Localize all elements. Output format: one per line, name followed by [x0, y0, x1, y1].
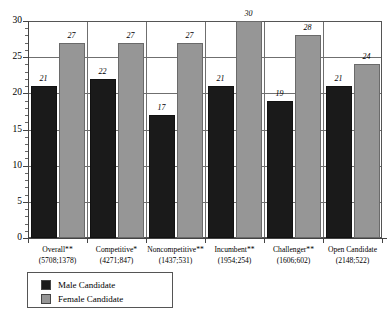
- y-tick-minor-7: [25, 187, 28, 188]
- group-separator-5: [323, 22, 324, 237]
- bar-value-female-4: 30: [230, 10, 268, 18]
- bar-value-female-6: 24: [348, 53, 386, 61]
- category-label-6: Open Candidate(2148;522): [311, 245, 392, 265]
- y-tick-minor-8: [25, 180, 28, 181]
- legend-swatch-male-icon: [41, 280, 51, 290]
- bar-value-male-6: 21: [320, 75, 358, 83]
- y-tick-minor-1: [25, 231, 28, 232]
- x-tick-1: [87, 238, 88, 243]
- y-axis: [28, 21, 29, 238]
- y-tick-major-15: [23, 130, 28, 131]
- y-tick-major-20: [23, 93, 28, 94]
- y-tick-major-10: [23, 166, 28, 167]
- y-tick-label-0: 0: [0, 233, 22, 243]
- y-tick-minor-21: [25, 86, 28, 87]
- category-name-6: Open Candidate: [311, 245, 392, 254]
- legend-label-male: Male Candidate: [58, 280, 115, 290]
- group-separator-1: [87, 22, 88, 237]
- x-tick-5: [323, 238, 324, 243]
- y-tick-minor-27: [25, 43, 28, 44]
- bar-female-3: [177, 43, 203, 238]
- y-tick-label-25: 25: [0, 52, 22, 62]
- bar-female-4: [236, 21, 262, 238]
- y-tick-minor-19: [25, 101, 28, 102]
- bar-value-male-2: 22: [84, 68, 122, 76]
- y-tick-minor-24: [25, 64, 28, 65]
- y-tick-minor-2: [25, 224, 28, 225]
- bar-male-5: [267, 101, 293, 238]
- bar-male-4: [208, 86, 234, 238]
- x-tick-3: [205, 238, 206, 243]
- bar-value-male-5: 19: [261, 90, 299, 98]
- bar-value-male-1: 21: [25, 75, 63, 83]
- legend: Male CandidateFemale Candidate: [27, 272, 173, 308]
- y-tick-major-5: [23, 202, 28, 203]
- y-tick-minor-11: [25, 158, 28, 159]
- category-sample-size-6: (2148;522): [311, 256, 392, 265]
- bar-value-male-4: 21: [202, 75, 240, 83]
- group-separator-4: [264, 22, 265, 237]
- y-tick-label-30: 30: [0, 16, 22, 26]
- y-tick-major-30: [23, 21, 28, 22]
- y-tick-label-20: 20: [0, 88, 22, 98]
- group-separator-2: [146, 22, 147, 237]
- y-tick-label-5: 5: [0, 197, 22, 207]
- y-tick-minor-16: [25, 122, 28, 123]
- bar-value-male-3: 17: [143, 104, 181, 112]
- y-tick-label-15: 15: [0, 125, 22, 135]
- y-tick-minor-26: [25, 50, 28, 51]
- x-tick-6: [382, 238, 383, 243]
- y-tick-minor-23: [25, 72, 28, 73]
- x-tick-4: [264, 238, 265, 243]
- y-tick-major-25: [23, 57, 28, 58]
- y-tick-minor-29: [25, 28, 28, 29]
- bar-female-6: [354, 64, 380, 238]
- bar-male-1: [31, 86, 57, 238]
- bar-value-female-5: 28: [289, 24, 327, 32]
- legend-label-female: Female Candidate: [58, 294, 123, 304]
- bar-male-6: [326, 86, 352, 238]
- y-tick-minor-12: [25, 151, 28, 152]
- y-tick-minor-3: [25, 216, 28, 217]
- bar-male-3: [149, 115, 175, 238]
- bar-value-female-2: 27: [112, 32, 150, 40]
- y-tick-minor-9: [25, 173, 28, 174]
- legend-item-male: Male Candidate: [41, 278, 115, 291]
- bar-female-1: [59, 43, 85, 238]
- chart-root: 051015202530 212722271727213019282124 Ov…: [0, 0, 392, 310]
- x-tick-2: [146, 238, 147, 243]
- bar-male-2: [90, 79, 116, 238]
- bar-value-female-1: 27: [53, 32, 91, 40]
- bar-female-2: [118, 43, 144, 238]
- group-separator-3: [205, 22, 206, 237]
- bar-female-5: [295, 35, 321, 238]
- legend-swatch-female-icon: [41, 294, 51, 304]
- bar-value-female-3: 27: [171, 32, 209, 40]
- y-tick-minor-28: [25, 35, 28, 36]
- legend-item-female: Female Candidate: [41, 292, 123, 305]
- y-tick-minor-4: [25, 209, 28, 210]
- y-tick-label-10: 10: [0, 161, 22, 171]
- y-tick-minor-14: [25, 137, 28, 138]
- y-tick-minor-17: [25, 115, 28, 116]
- y-tick-minor-6: [25, 195, 28, 196]
- y-tick-minor-18: [25, 108, 28, 109]
- y-tick-minor-13: [25, 144, 28, 145]
- x-tick-0: [28, 238, 29, 243]
